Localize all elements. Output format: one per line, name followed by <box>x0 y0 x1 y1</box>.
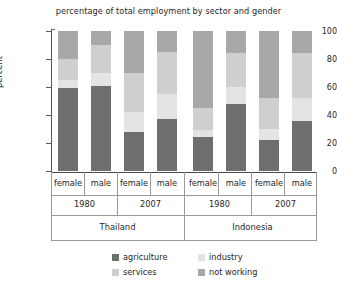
bar-segment-industry <box>193 130 213 137</box>
y-tick-mark-20 <box>46 143 51 144</box>
legend-swatch-icon-agriculture <box>112 254 119 261</box>
bar-segment-agriculture <box>193 137 213 171</box>
x-axis-rule-gender-split-3 <box>284 172 285 195</box>
bar-segment-not-working <box>259 31 279 98</box>
y-axis-top-cap <box>51 29 55 30</box>
x-label-country-1: Indonesia <box>218 222 288 232</box>
legend-swatch-icon-services <box>112 269 119 276</box>
bar-segment-agriculture <box>58 88 78 171</box>
bar-segment-services <box>259 98 279 129</box>
x-axis-rule-year-split-indonesia <box>251 172 252 215</box>
x-axis-rule-gender-split-0 <box>84 172 85 195</box>
bar-segment-services <box>226 53 246 87</box>
bar-segment-not-working <box>292 31 312 53</box>
bar-segment-agriculture <box>91 86 111 171</box>
y-tick-mark-80 <box>46 59 51 60</box>
bar-segment-not-working <box>157 31 177 52</box>
legend-item-industry: industry <box>198 252 287 262</box>
x-axis-rule-gender-split-1 <box>150 172 151 195</box>
bar-segment-services <box>193 108 213 130</box>
x-label-gender-7: male <box>280 178 324 188</box>
x-axis-rule-year-split-thailand <box>117 172 118 215</box>
bar-segment-industry <box>226 87 246 104</box>
legend-item-agriculture: agriculture <box>112 252 198 262</box>
chart-figure: percentage of total employment by sector… <box>0 0 337 292</box>
x-label-country-0: Thailand <box>83 222 153 232</box>
bar-segment-services <box>58 59 78 80</box>
y-tick-mark-100 <box>46 31 51 32</box>
bar-thailand-1980-female[interactable] <box>58 31 78 171</box>
bar-segment-agriculture <box>226 104 246 171</box>
bar-segment-not-working <box>193 31 213 108</box>
bar-segment-services <box>124 73 144 112</box>
bar-segment-services <box>91 45 111 73</box>
bar-segment-agriculture <box>292 121 312 171</box>
x-label-year-1: 2007 <box>129 199 173 209</box>
legend-swatch-icon-not-working <box>198 269 205 276</box>
bar-segment-industry <box>124 112 144 132</box>
bar-segment-not-working <box>124 31 144 73</box>
x-axis-rule-left <box>51 172 52 240</box>
legend-label-agriculture: agriculture <box>123 252 167 262</box>
chart-title: percentage of total employment by sector… <box>0 6 337 16</box>
bar-segment-agriculture <box>157 119 177 171</box>
bar-thailand-2007-male[interactable] <box>157 31 177 171</box>
bar-segment-agriculture <box>124 132 144 171</box>
bar-indonesia-1980-male[interactable] <box>226 31 246 171</box>
x-axis-rule-gender-split-2 <box>218 172 219 195</box>
bar-segment-not-working <box>58 31 78 59</box>
bar-segment-services <box>292 53 312 98</box>
y-tick-mark-40 <box>46 115 51 116</box>
bar-indonesia-1980-female[interactable] <box>193 31 213 171</box>
x-label-year-3: 2007 <box>264 199 308 209</box>
legend-item-services: services <box>112 267 198 277</box>
y-tick-mark-60 <box>46 87 51 88</box>
x-axis-rule-right <box>316 172 317 240</box>
bar-segment-services <box>157 52 177 94</box>
bar-segment-industry <box>58 80 78 88</box>
bar-thailand-1980-male[interactable] <box>91 31 111 171</box>
bar-segment-industry <box>157 94 177 119</box>
legend-label-not-working: not working <box>209 267 258 277</box>
x-label-year-0: 1980 <box>63 199 107 209</box>
plot-area <box>52 31 317 171</box>
bar-indonesia-2007-female[interactable] <box>259 31 279 171</box>
bar-segment-industry <box>259 129 279 140</box>
chart-legend: agriculture industry services not workin… <box>112 252 287 277</box>
legend-label-industry: industry <box>209 252 243 262</box>
bar-segment-not-working <box>91 31 111 45</box>
bar-indonesia-2007-male[interactable] <box>292 31 312 171</box>
x-axis-rule-country-split <box>184 172 185 240</box>
bar-segment-not-working <box>226 31 246 53</box>
legend-item-not-working: not working <box>198 267 287 277</box>
bar-thailand-2007-female[interactable] <box>124 31 144 171</box>
legend-swatch-icon-industry <box>198 254 205 261</box>
bar-segment-agriculture <box>259 140 279 171</box>
country-row-divider <box>51 240 317 241</box>
x-label-year-2: 1980 <box>198 199 242 209</box>
legend-label-services: services <box>123 267 157 277</box>
y-axis-title: percent <box>0 56 4 88</box>
bar-segment-industry <box>292 98 312 120</box>
bar-segment-industry <box>91 73 111 86</box>
